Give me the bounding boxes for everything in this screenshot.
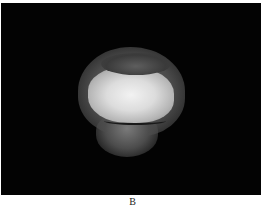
bone-articular-surface	[88, 67, 174, 123]
panel-label: B	[0, 196, 265, 207]
image-panel	[1, 3, 261, 195]
bone-rim-line	[104, 117, 166, 125]
bone-upper-edge	[101, 53, 171, 75]
